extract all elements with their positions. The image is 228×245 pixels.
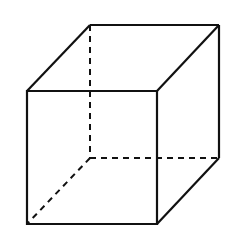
hidden-bottom-left-edge [27,158,90,224]
bottom-right-edge [157,158,219,224]
top-right-edge [157,25,219,91]
top-left-edge [27,25,90,91]
cube-diagram [0,0,228,245]
